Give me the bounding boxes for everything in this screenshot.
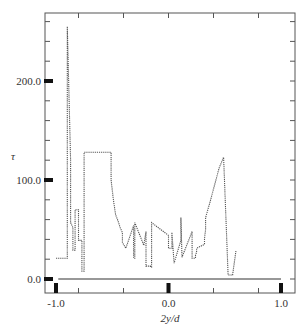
x-tick-label: 1.0 [274, 297, 288, 309]
x-tick-label: 0.0 [162, 297, 176, 309]
y-axis-label: τ [11, 150, 16, 162]
y-tick-label: 200.0 [16, 75, 41, 87]
tau-series-line [56, 27, 236, 275]
x-axis-ticks: -1.00.01.0 [47, 13, 288, 309]
plot-frame [45, 13, 295, 293]
y-major-tick [44, 277, 53, 281]
y-major-tick [44, 178, 53, 182]
x-axis-label: 2y/d [161, 312, 180, 324]
x-tick-label: -1.0 [47, 297, 65, 309]
x-major-tick [167, 283, 171, 293]
y-tick-label: 0.0 [27, 273, 41, 285]
y-major-tick [44, 79, 53, 83]
x-major-tick [54, 283, 58, 293]
tau-profile-chart: 0.0100.0200.0 -1.00.01.0 τ 2y/d [0, 0, 306, 334]
y-axis-ticks: 0.0100.0200.0 [16, 22, 295, 285]
x-major-tick [279, 283, 283, 293]
y-tick-label: 100.0 [16, 174, 41, 186]
